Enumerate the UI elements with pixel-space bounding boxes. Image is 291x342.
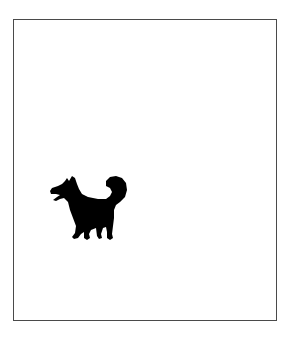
dog-silhouette-icon: [48, 172, 132, 244]
picture-frame: [13, 19, 277, 321]
